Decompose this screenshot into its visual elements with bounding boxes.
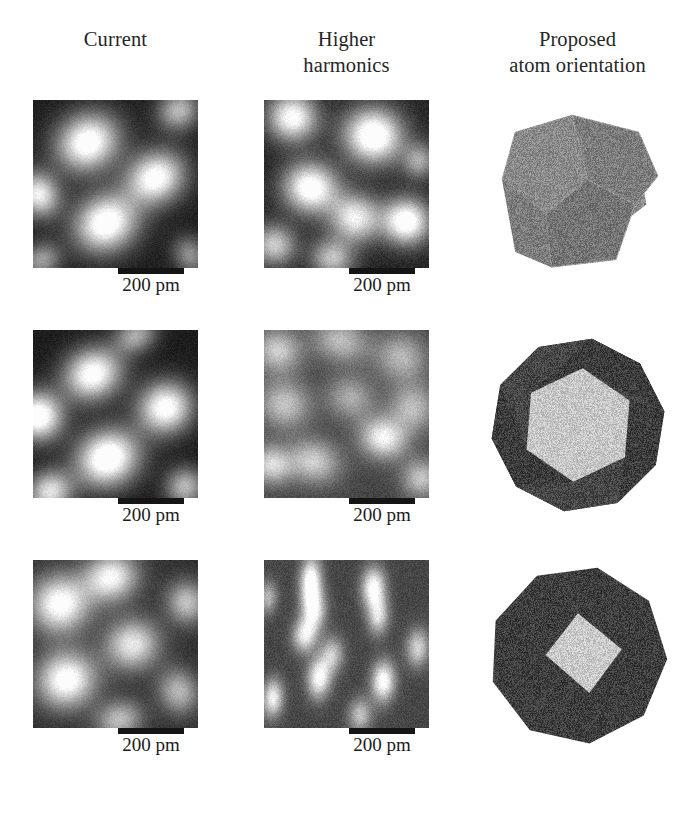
scalebar-current-row-3: 200 pm (0, 728, 231, 756)
stm-scan-harmonics-row-3 (264, 560, 429, 728)
column-header-proposed-line-2: atom orientation (462, 52, 693, 78)
scalebar-label: 200 pm (353, 735, 411, 756)
panel-row-2: 200 pm 200 pm (0, 330, 693, 526)
column-header-proposed-atom-orientation: Proposed atom orientation (462, 26, 693, 78)
scalebar-harmonics-row-1: 200 pm (231, 268, 462, 296)
cell-polyhedron-row-1 (462, 100, 693, 296)
stm-scan-harmonics-row-1 (264, 100, 429, 268)
panel-row-1: 200 pm 200 pm (0, 100, 693, 296)
scalebar-current-row-1: 200 pm (0, 268, 231, 296)
scalebar-label: 200 pm (122, 735, 180, 756)
panel-grid: 200 pm 200 pm (0, 78, 693, 756)
column-header-current-line-1: Current (0, 26, 231, 52)
column-header-higher-harmonics: Higher harmonics (231, 26, 462, 78)
panel-row-3: 200 pm 200 pm (0, 560, 693, 756)
polyhedron-row-1 (483, 100, 673, 290)
cell-higher-harmonics-row-1: 200 pm (231, 100, 462, 296)
stm-scan-current-row-3 (33, 560, 198, 728)
column-header-higher-harmonics-line-1: Higher (231, 26, 462, 52)
scalebar-label: 200 pm (353, 275, 411, 296)
cell-polyhedron-row-3 (462, 560, 693, 756)
scalebar-harmonics-row-3: 200 pm (231, 728, 462, 756)
cell-polyhedron-row-2 (462, 330, 693, 526)
stm-scan-harmonics-row-2 (264, 330, 429, 498)
column-header-proposed-line-1: Proposed (462, 26, 693, 52)
scalebar-current-row-2: 200 pm (0, 498, 231, 526)
column-headers: Current Higher harmonics Proposed atom o… (0, 0, 693, 78)
polyhedron-row-3 (483, 560, 673, 750)
stm-scan-current-row-1 (33, 100, 198, 268)
stm-scan-current-row-2 (33, 330, 198, 498)
cell-current-row-1: 200 pm (0, 100, 231, 296)
column-header-current: Current (0, 26, 231, 78)
cell-higher-harmonics-row-3: 200 pm (231, 560, 462, 756)
cell-current-row-2: 200 pm (0, 330, 231, 526)
column-header-higher-harmonics-line-2: harmonics (231, 52, 462, 78)
figure-root: Current Higher harmonics Proposed atom o… (0, 0, 693, 834)
cell-higher-harmonics-row-2: 200 pm (231, 330, 462, 526)
scalebar-label: 200 pm (122, 505, 180, 526)
scalebar-harmonics-row-2: 200 pm (231, 498, 462, 526)
cell-current-row-3: 200 pm (0, 560, 231, 756)
polyhedron-row-2 (483, 330, 673, 520)
scalebar-label: 200 pm (122, 275, 180, 296)
scalebar-label: 200 pm (353, 505, 411, 526)
